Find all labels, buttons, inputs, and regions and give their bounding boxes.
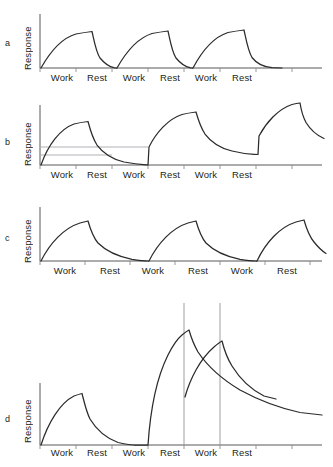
panel-b-xlabel-4: Work <box>195 169 217 180</box>
panel-d-xlabel-0: Work <box>51 447 73 458</box>
panel-c: c Response Work Rest Work Rest Work Rest <box>0 195 333 295</box>
panel-d-plot <box>0 295 333 467</box>
panel-b-xlabel-0: Work <box>51 169 73 180</box>
panel-a-xlabel-1: Rest <box>87 72 107 83</box>
panel-a-xlabel-2: Work <box>123 72 145 83</box>
panel-d-xlabel-3: Rest <box>160 447 180 458</box>
panel-b-letter: b <box>5 137 10 147</box>
panel-b-curve <box>41 103 324 165</box>
panel-d-xlabel-5: Rest <box>232 447 252 458</box>
panel-c-xlabel-5: Rest <box>277 265 297 276</box>
panel-d-xlabels: Work Rest Work Rest Work Rest <box>0 447 333 461</box>
panel-d-curve-main <box>41 330 322 445</box>
panel-a-xlabel-5: Rest <box>232 72 252 83</box>
panel-c-xlabel-3: Rest <box>188 265 208 276</box>
panel-b-ylabel: Response <box>22 112 33 166</box>
panel-c-xlabel-2: Work <box>142 265 164 276</box>
panel-a-xlabels: Work Rest Work Rest Work Rest <box>0 72 333 86</box>
panel-d: d Response Work Rest Work Res <box>0 295 333 467</box>
panel-b-xlabel-5: Rest <box>232 169 252 180</box>
panel-c-xlabels: Work Rest Work Rest Work Rest <box>0 265 333 279</box>
panel-a-letter: a <box>5 38 10 48</box>
panel-a-ylabel: Response <box>22 16 33 70</box>
panel-a: a Response Work Rest Work Rest Work Re <box>0 0 333 95</box>
panel-d-ylabel: Response <box>22 387 33 443</box>
panel-c-plot <box>0 195 333 295</box>
panel-b-xlabel-3: Rest <box>160 169 180 180</box>
panel-b-xlabels: Work Rest Work Rest Work Rest <box>0 169 333 183</box>
panel-a-xlabel-3: Rest <box>160 72 180 83</box>
panel-d-xlabel-2: Work <box>123 447 145 458</box>
panel-d-letter: d <box>5 414 10 424</box>
panel-d-xlabel-1: Rest <box>87 447 107 458</box>
panel-a-xlabel-0: Work <box>51 72 73 83</box>
panel-c-ylabel: Response <box>22 209 33 263</box>
panel-b: b Response Work Rest Work Rest <box>0 95 333 195</box>
panel-d-curve-third-cycle <box>185 341 276 399</box>
panel-c-letter: c <box>5 233 10 243</box>
response-cycles-figure: a Response Work Rest Work Rest Work Re <box>0 0 333 467</box>
panel-c-xlabel-0: Work <box>54 265 76 276</box>
panel-a-xlabel-4: Work <box>195 72 217 83</box>
panel-a-curve <box>41 30 282 68</box>
panel-d-xlabel-4: Work <box>195 447 217 458</box>
panel-c-xlabel-1: Rest <box>100 265 120 276</box>
panel-c-curve <box>41 220 326 261</box>
panel-b-xlabel-1: Rest <box>87 169 107 180</box>
panel-c-xlabel-4: Work <box>231 265 253 276</box>
panel-b-xlabel-2: Work <box>123 169 145 180</box>
